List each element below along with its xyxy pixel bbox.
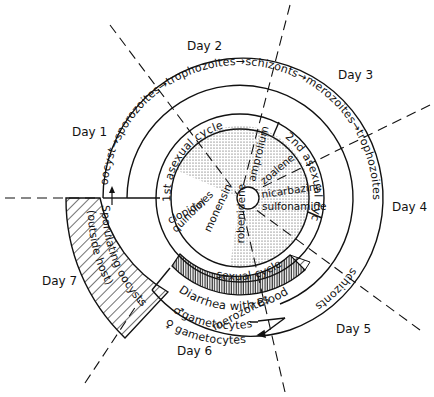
drug-robenidene: robenidene — [234, 184, 247, 244]
day-5-label: Day 5 — [336, 322, 371, 336]
oocyst-arrow — [109, 186, 115, 193]
day-4-label: Day 4 — [392, 200, 427, 214]
day-7-label: Day 7 — [42, 274, 77, 288]
drug-sulfonamide: sulfonamide — [262, 200, 327, 212]
day-2-label: Day 2 — [187, 39, 222, 53]
outer-ring-lower-sequence: schizonts — [313, 266, 360, 313]
day-3-label: Day 3 — [338, 68, 373, 82]
gametocyte-arrows — [250, 318, 285, 337]
day-6-label: Day 6 — [177, 344, 212, 358]
coccidia-lifecycle-diagram: Day 1 Day 2 Day 3 Day 4 Day 5 Day 6 Day … — [0, 0, 434, 397]
day-1-label: Day 1 — [72, 125, 107, 139]
